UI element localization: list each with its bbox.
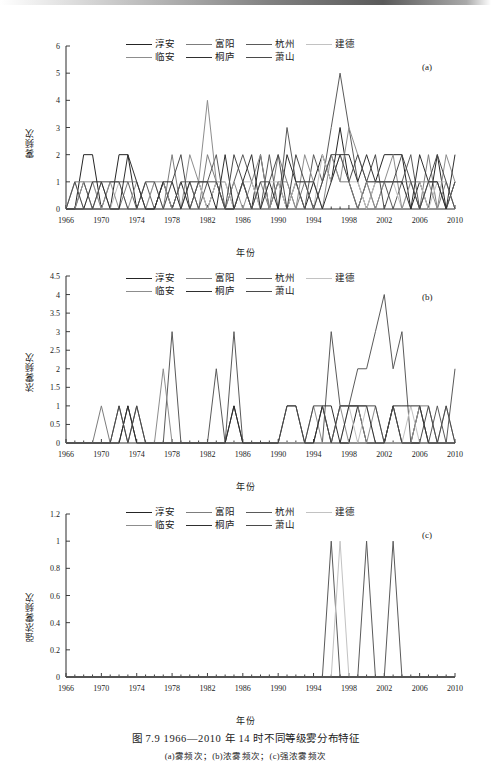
y-tick-label: 0.6 — [50, 592, 60, 601]
legend-label: 淳安 — [155, 508, 175, 518]
legend-swatch-icon — [186, 57, 212, 58]
legend-item-桐庐: 桐庐 — [186, 521, 235, 531]
legend-label: 临安 — [155, 287, 175, 297]
legend-item-萧山: 萧山 — [246, 287, 295, 297]
x-tick-label: 1998 — [341, 450, 357, 459]
x-tick-label: 1978 — [164, 216, 180, 225]
legend-label: 临安 — [155, 53, 175, 63]
legend-label: 杭州 — [275, 508, 295, 518]
x-tick-label: 1982 — [199, 450, 215, 459]
legend-swatch-icon — [246, 512, 272, 513]
x-tick-label: 2010 — [447, 216, 463, 225]
legend-b: 淳安富阳杭州建德临安桐庐萧山 — [126, 274, 355, 296]
y-axis-title-c: 强浓雾频次 — [22, 592, 35, 642]
legend-label: 杭州 — [275, 40, 295, 50]
x-tick-label: 1966 — [58, 684, 74, 693]
series-line-桐庐 — [66, 406, 455, 443]
series-line-杭州 — [66, 541, 455, 677]
legend-label: 桐庐 — [215, 287, 235, 297]
x-tick-label: 1982 — [199, 684, 215, 693]
legend-item-杭州: 杭州 — [246, 274, 295, 284]
legend-item-建德: 建德 — [306, 40, 355, 50]
legend-swatch-icon — [186, 278, 212, 279]
panel-tag-a: (a) — [422, 62, 432, 72]
x-tick-label: 1998 — [341, 684, 357, 693]
legend-item-富阳: 富阳 — [186, 274, 235, 284]
x-tick-label: 2002 — [376, 450, 392, 459]
y-tick-label: 1.2 — [50, 510, 60, 519]
panel-tag-b: (b) — [422, 292, 433, 302]
figure-caption: 图 7.9 1966—2010 年 14 时不同等级雾分布特征 (a)雾频次；(… — [0, 730, 491, 761]
y-tick-label: 5 — [56, 69, 60, 78]
legend-item-淳安: 淳安 — [126, 40, 175, 50]
legend-swatch-icon — [126, 525, 152, 526]
legend-swatch-icon — [186, 44, 212, 45]
y-tick-label: 0.5 — [50, 420, 60, 429]
legend-swatch-icon — [246, 291, 272, 292]
x-tick-label: 1998 — [341, 216, 357, 225]
y-tick-label: 0 — [56, 673, 60, 682]
y-tick-label: 3 — [56, 124, 60, 133]
y-tick-label: 3.5 — [50, 309, 60, 318]
x-tick-label: 2002 — [376, 216, 392, 225]
x-tick-label: 2006 — [412, 684, 428, 693]
legend-item-建德: 建德 — [306, 508, 355, 518]
x-tick-label: 1986 — [235, 684, 251, 693]
legend-swatch-icon — [126, 44, 152, 45]
x-tick-label: 2002 — [376, 684, 392, 693]
series-line-建德 — [66, 541, 455, 677]
legend-label: 建德 — [335, 40, 355, 50]
series-line-建德 — [66, 406, 455, 443]
y-tick-label: 1.5 — [50, 383, 60, 392]
figure-page: 淳安富阳杭州建德临安桐庐萧山 (a) 雾频次 01234561966197019… — [0, 0, 491, 774]
legend-swatch-icon — [186, 525, 212, 526]
y-tick-label: 2 — [56, 151, 60, 160]
x-axis-title-b: 年份 — [0, 480, 491, 493]
x-tick-label: 2010 — [447, 450, 463, 459]
legend-item-杭州: 杭州 — [246, 40, 295, 50]
x-axis-title-a: 年份 — [0, 246, 491, 259]
legend-item-淳安: 淳安 — [126, 508, 175, 518]
legend-item-淳安: 淳安 — [126, 274, 175, 284]
legend-item-临安: 临安 — [126, 521, 175, 531]
legend-item-桐庐: 桐庐 — [186, 53, 235, 63]
chart-panel-c: 淳安富阳杭州建德临安桐庐萧山 (c) 强浓雾频次 00.20.40.60.811… — [0, 496, 491, 728]
chart-panel-b: 淳安富阳杭州建德临安桐庐萧山 (b) 浓雾频次 00.511.522.533.5… — [0, 262, 491, 494]
x-tick-label: 1970 — [93, 450, 109, 459]
x-tick-label: 2006 — [412, 216, 428, 225]
x-tick-label: 1986 — [235, 216, 251, 225]
x-tick-label: 1978 — [164, 450, 180, 459]
legend-swatch-icon — [186, 512, 212, 513]
y-tick-label: 4.5 — [50, 272, 60, 281]
legend-item-桐庐: 桐庐 — [186, 287, 235, 297]
y-tick-label: 0.2 — [50, 646, 60, 655]
x-tick-label: 1970 — [93, 684, 109, 693]
x-tick-label: 1990 — [270, 684, 286, 693]
x-tick-label: 1970 — [93, 216, 109, 225]
y-tick-label: 1 — [56, 402, 60, 411]
x-tick-label: 1994 — [306, 216, 322, 225]
legend-item-萧山: 萧山 — [246, 521, 295, 531]
legend-label: 建德 — [335, 508, 355, 518]
y-tick-label: 4 — [56, 96, 60, 105]
legend-c: 淳安富阳杭州建德临安桐庐萧山 — [126, 508, 355, 530]
legend-label: 临安 — [155, 521, 175, 531]
legend-label: 萧山 — [275, 287, 295, 297]
x-tick-label: 1982 — [199, 216, 215, 225]
legend-swatch-icon — [246, 525, 272, 526]
scan-edge-artifact — [0, 0, 491, 5]
legend-item-临安: 临安 — [126, 53, 175, 63]
x-tick-label: 2006 — [412, 450, 428, 459]
x-tick-label: 1974 — [129, 684, 145, 693]
y-tick-label: 0.4 — [50, 619, 60, 628]
x-tick-label: 1990 — [270, 450, 286, 459]
y-axis-title-a: 雾频次 — [22, 128, 35, 158]
legend-label: 杭州 — [275, 274, 295, 284]
x-tick-label: 1966 — [58, 216, 74, 225]
legend-item-富阳: 富阳 — [186, 508, 235, 518]
x-axis-title-c: 年份 — [0, 714, 491, 727]
y-tick-label: 2.5 — [50, 346, 60, 355]
x-tick-label: 1994 — [306, 450, 322, 459]
series-line-萧山 — [66, 406, 455, 443]
x-tick-label: 1986 — [235, 450, 251, 459]
